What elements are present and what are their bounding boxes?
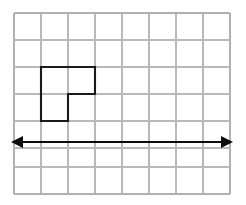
arrow-head-right-icon [221, 136, 233, 148]
arrow-head-left-icon [11, 136, 23, 148]
figure-container: Grid with L-shaped polygon and horizonta… [0, 0, 246, 205]
geometry-figure: Grid with L-shaped polygon and horizonta… [0, 0, 246, 205]
grid-layer [14, 13, 230, 194]
